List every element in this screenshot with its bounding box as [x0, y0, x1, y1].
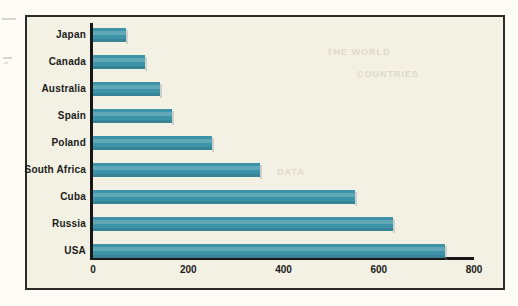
category-label: Cuba [60, 190, 86, 204]
bar [93, 244, 445, 258]
bar [93, 217, 393, 231]
x-axis-tick-labels: 0 200 400 600 800 [27, 264, 503, 278]
category-label: USA [64, 244, 86, 258]
scan-artifact-mark [3, 57, 12, 59]
category-label: South Africa [25, 163, 86, 177]
x-tick-label: 200 [180, 264, 197, 275]
bar [93, 28, 126, 42]
chart-frame: THE WORLD COUNTRIES DATA Japan Canada Au… [25, 15, 505, 290]
bar [93, 109, 172, 123]
plot-area: Japan Canada Australia Spain Poland Sout… [27, 17, 503, 288]
bar [93, 55, 145, 69]
x-tick-label: 400 [275, 264, 292, 275]
category-label: Russia [52, 217, 86, 231]
bar [93, 136, 212, 150]
scan-artifact-mark [4, 62, 8, 64]
bar [93, 82, 160, 96]
bar [93, 163, 260, 177]
category-label: Canada [49, 55, 86, 69]
bar [93, 190, 355, 204]
category-label: Japan [56, 28, 86, 42]
page-background: THE WORLD COUNTRIES DATA Japan Canada Au… [0, 0, 518, 306]
category-label: Australia [41, 82, 86, 96]
x-tick-label: 600 [370, 264, 387, 275]
category-label: Poland [51, 136, 86, 150]
category-label: Spain [58, 109, 86, 123]
scan-artifact-mark [2, 18, 16, 20]
x-tick-label: 0 [90, 264, 96, 275]
x-tick-label: 800 [466, 264, 483, 275]
